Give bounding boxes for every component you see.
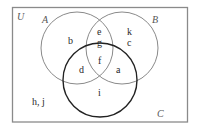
set-a-circle [41,12,113,84]
region-outside: h, j [32,96,45,107]
region-bc: a [116,64,121,75]
region-c-only: i [98,87,101,98]
region-ab-g: g [97,37,102,48]
region-abc: f [98,55,102,66]
region-a-only: b [68,35,73,46]
set-b-label: B [152,14,158,25]
set-c-label: C [157,108,164,119]
region-b-c: c [127,37,132,48]
region-b-k: k [127,26,132,37]
universe-label: U [17,11,25,22]
region-ab-e: e [97,26,102,37]
set-a-label: A [41,14,49,25]
set-b-circle [86,12,158,84]
venn-diagram: U A B C b e g k c f d a i h, j [0,0,197,130]
region-ac: d [79,64,84,75]
